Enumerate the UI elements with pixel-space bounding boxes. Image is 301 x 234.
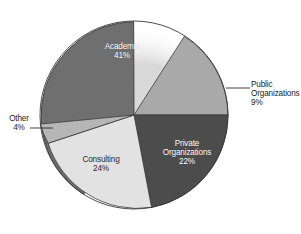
slice-label-academic: Academic 41% <box>84 42 160 60</box>
slice-label-public-organizations-value: 9% <box>251 98 301 107</box>
slice-label-academic-name: Academic <box>84 42 160 51</box>
slice-label-other-value: 4% <box>2 123 36 132</box>
slice-label-consulting-name: Consulting <box>63 155 139 164</box>
pie-chart: Academic 41% Private Organizations 22% C… <box>0 0 301 234</box>
slice-label-other-name: Other <box>2 114 36 123</box>
slice-label-private-organizations-value: 22% <box>144 157 230 166</box>
slice-label-public-organizations: Public Organizations 9% <box>251 80 301 108</box>
slice-label-academic-value: 41% <box>84 51 160 60</box>
slice-label-private-organizations: Private Organizations 22% <box>144 139 230 167</box>
slice-label-public-organizations-name-line2: Organizations <box>251 89 301 98</box>
slice-label-public-organizations-name-line1: Public <box>251 80 301 89</box>
slice-label-consulting-value: 24% <box>63 164 139 173</box>
slice-label-private-organizations-name-line2: Organizations <box>144 148 230 157</box>
slice-label-consulting: Consulting 24% <box>63 155 139 173</box>
slice-label-private-organizations-name-line1: Private <box>144 139 230 148</box>
slice-label-other: Other 4% <box>2 114 36 132</box>
pie-chart-svg <box>0 0 301 234</box>
